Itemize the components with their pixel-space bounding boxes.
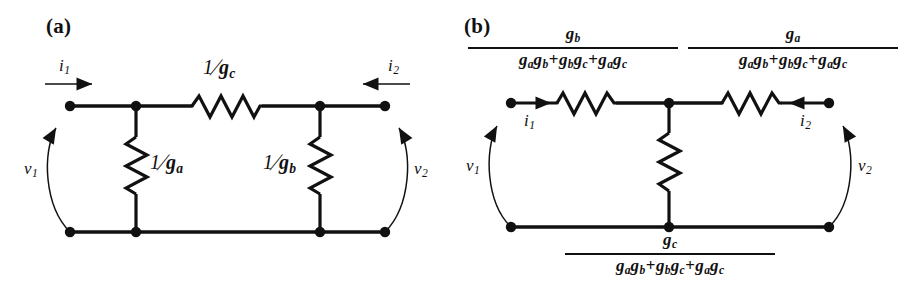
panel-a-label: (a) [46,14,71,39]
term1-g2: g [631,256,640,275]
panel-b-resistor-center [659,103,680,227]
panel-b-resistor-right [722,93,782,114]
panel-a-gc-subscript: c [229,66,235,81]
term2-g2: g [671,256,680,275]
plus-operator: + [685,256,696,275]
panel-a-schematic [45,84,410,237]
v2-symbol: v [414,159,422,178]
term3-g1: g [695,256,704,275]
term2-sub2: c [802,58,808,71]
fraction-bar [468,47,678,49]
panel-a-current-label-i1: i1 [59,57,70,77]
panel-b-fraction-left-denominator: gagb+gbgc+gagc [468,50,678,72]
panel-a-voltage-arc-v1 [47,128,70,232]
panel-a-current-label-i2: i2 [388,57,399,77]
v1-subscript: 1 [32,167,38,180]
panel-b-resistor-left [557,93,617,114]
v2-subscript: 2 [422,167,428,180]
panel-b-fraction-right-denominator: gagb+gbgc+gagc [688,50,898,72]
panel-b-voltage-label-v1: v1 [466,157,480,177]
v1-symbol: v [24,159,32,178]
v2-subscript: 2 [866,164,872,177]
panel-b-fraction-left-numerator: gb [468,25,678,46]
panel-a-resistor-ga [126,106,147,232]
panel-b-voltage-arc-v1 [489,126,511,227]
panel-a-gb-subscript: b [289,161,296,176]
gb-subscript: b [574,32,580,45]
v2-symbol: v [858,156,866,175]
panel-a-ga-subscript: a [176,161,183,176]
panel-b-fraction-bottom-denominator: gagb+gbgc+gagc [565,256,775,278]
term2-sub2: c [582,58,588,71]
term3-sub2: c [719,264,725,277]
term1-g2: g [534,50,543,69]
panel-b-fraction-left: gb gagb+gbgc+gagc [468,25,678,72]
ga-subscript: a [794,32,800,45]
panel-b-fraction-bottom-numerator: gc [565,231,775,252]
panel-a-nodes [65,101,390,237]
term2-g2: g [794,50,803,69]
panel-b-fraction-right: ga gagb+gbgc+gagc [688,25,898,72]
panel-a-resistor-gb [310,106,331,232]
i2-subscript: 2 [805,119,811,132]
v1-symbol: v [466,156,474,175]
panel-a-voltage-label-v2: v2 [414,160,428,180]
term3-g1: g [598,50,607,69]
gb-symbol: g [566,24,575,43]
plus-operator: + [588,50,599,69]
plus-operator: + [645,256,656,275]
panel-a-voltage-label-v1: v1 [24,160,38,180]
term2-sub2: c [679,264,685,277]
panel-b-fraction-right-numerator: ga [688,25,898,46]
panel-b-voltage-label-v2: v2 [858,157,872,177]
fraction-bar [565,253,775,255]
panel-b-current-label-i1: i1 [524,112,535,132]
plus-operator: + [808,50,819,69]
panel-b-schematic [489,93,851,232]
term3-g1: g [818,50,827,69]
term3-g2: g [833,50,842,69]
i1-subscript: 1 [529,119,535,132]
plus-operator: + [768,50,779,69]
v1-subscript: 1 [474,164,480,177]
i2-subscript: 2 [393,64,399,77]
fraction-bar [688,47,898,49]
ga-symbol: g [786,24,795,43]
panel-a-resistor-gc [192,96,263,117]
gc-subscript: c [671,238,677,251]
i1-subscript: 1 [64,64,70,77]
panel-b-voltage-arc-v2 [829,126,851,227]
term3-sub2: c [842,58,848,71]
panel-a-resistor-ga-label: 1/ga [150,152,183,175]
panel-a-resistor-gc-label: 1/gc [203,57,235,80]
term3-sub2: c [622,58,628,71]
plus-operator: + [548,50,559,69]
panel-a-voltage-arc-v2 [385,128,408,232]
term3-g2: g [710,256,719,275]
term3-g2: g [613,50,622,69]
panel-b-fraction-bottom: gc gagb+gbgc+gagc [565,231,775,278]
two-port-network-figure: (a) 1/gc 1/ga 1/gb i1 i2 v1 v2 (b) gb ga… [0,0,906,299]
term2-g2: g [574,50,583,69]
term1-g2: g [754,50,763,69]
panel-a-resistor-gb-label: 1/gb [263,152,296,175]
panel-b-current-label-i2: i2 [800,112,811,132]
